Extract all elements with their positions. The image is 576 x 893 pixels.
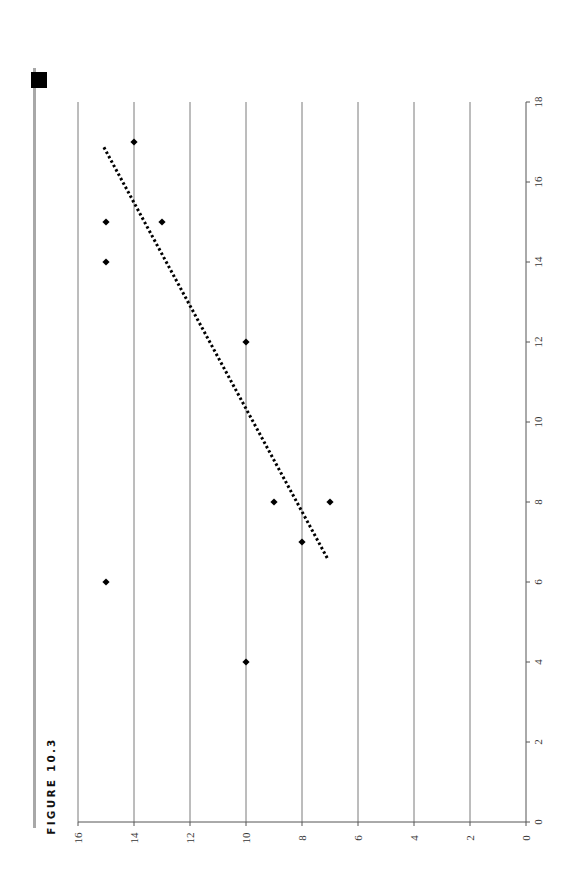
data-point — [102, 578, 109, 585]
tick-label-y-0: 0 — [520, 835, 532, 841]
tick-label-y-12: 12 — [184, 833, 196, 844]
tick-label-x-10: 10 — [532, 416, 544, 428]
tick-label-y-8: 8 — [296, 835, 308, 841]
tick-label-x-14: 14 — [532, 256, 544, 268]
data-point — [158, 218, 165, 225]
tick-label-x-0: 0 — [532, 819, 544, 825]
tick-label-x-4: 4 — [532, 659, 544, 665]
tick-label-y-2: 2 — [464, 835, 476, 841]
figure-page: FIGURE 10.3 0246810121416024681012141618 — [0, 0, 576, 893]
tick-label-y-16: 16 — [72, 832, 84, 844]
data-point — [102, 258, 109, 265]
tick-label-x-18: 18 — [532, 96, 544, 108]
data-point — [130, 138, 137, 145]
scatter-chart: 0246810121416024681012141618 — [0, 0, 576, 893]
data-point — [298, 538, 305, 545]
tick-label-y-6: 6 — [352, 835, 364, 841]
data-point — [270, 498, 277, 505]
data-point — [242, 338, 249, 345]
tick-label-x-6: 6 — [532, 579, 544, 585]
trendline-group — [103, 146, 327, 558]
data-points — [102, 138, 333, 665]
trendline — [103, 146, 327, 558]
tick-label-x-2: 2 — [532, 739, 544, 745]
axes — [78, 102, 530, 826]
tick-label-y-14: 14 — [128, 832, 140, 844]
tick-label-x-12: 12 — [532, 337, 544, 348]
data-point — [242, 658, 249, 665]
tick-labels: 0246810121416024681012141618 — [72, 96, 544, 844]
tick-label-x-8: 8 — [532, 499, 544, 505]
tick-label-y-10: 10 — [240, 832, 252, 844]
tick-label-y-4: 4 — [408, 835, 420, 841]
tick-label-x-16: 16 — [532, 176, 544, 188]
data-point — [326, 498, 333, 505]
data-point — [102, 218, 109, 225]
